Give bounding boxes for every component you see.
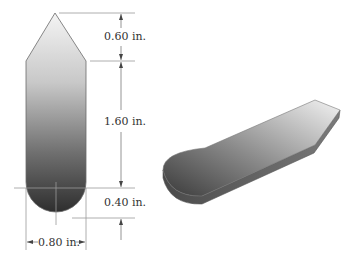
arrow-down-icon <box>119 54 123 60</box>
arrow-left-icon <box>27 240 33 244</box>
arrow-up-icon <box>119 14 123 20</box>
dim-label-tip: 0.60 in. <box>104 30 146 43</box>
isometric-view <box>163 100 340 204</box>
arrow-up-icon <box>119 62 123 68</box>
dim-label-width: 0.80 in. <box>38 236 80 249</box>
dim-label-body: 1.60 in. <box>104 115 146 128</box>
diagram-canvas: 0.60 in. 1.60 in. 0.40 in. 0.80 in. <box>0 0 357 262</box>
arrow-up-icon <box>119 219 123 225</box>
dim-label-radius: 0.40 in. <box>104 196 146 209</box>
arrow-down-icon <box>119 181 123 187</box>
